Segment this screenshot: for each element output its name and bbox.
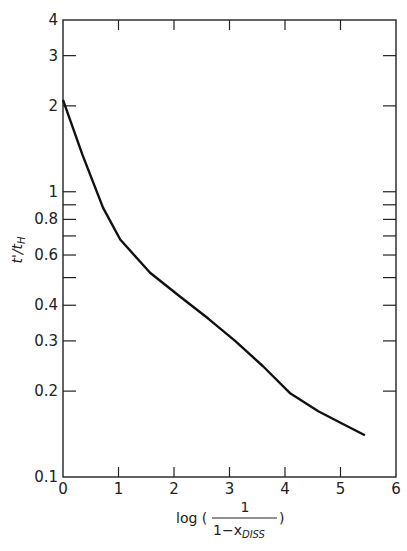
x-tick-label: 4 [280, 480, 290, 498]
y-tick-label: 4 [48, 11, 58, 29]
x-tick-label: 2 [169, 480, 179, 498]
x-label-prefix: log ( [176, 510, 207, 526]
y-label-main: t'/t [9, 243, 25, 263]
plot-border [63, 20, 396, 477]
y-label-subscript: H [16, 236, 27, 244]
x-tick-label: 6 [391, 480, 401, 498]
y-tick-label: 0.8 [34, 210, 58, 228]
plot-frame [63, 20, 396, 477]
axis-ticks [63, 20, 396, 477]
x-axis-label: log ( 1 1−xDISS ) [176, 499, 284, 540]
x-tick-label: 1 [114, 480, 124, 498]
x-label-numerator: 1 [241, 499, 250, 515]
y-tick-label: 0.2 [34, 382, 58, 400]
y-tick-label: 3 [48, 47, 58, 65]
y-tick-label: 1 [48, 183, 58, 201]
x-label-denominator: 1−xDISS [213, 522, 266, 540]
y-tick-label: 0.6 [34, 246, 58, 264]
data-curve [63, 100, 365, 436]
y-tick-label: 0.1 [34, 468, 58, 486]
x-label-suffix: ) [279, 510, 284, 526]
x-tick-label: 5 [336, 480, 346, 498]
svg-text:t'/tH: t'/tH [9, 236, 27, 264]
x-tick-label: 3 [225, 480, 235, 498]
x-label-denominator-main: 1−x [213, 522, 242, 538]
chart: 01234560.10.20.30.40.60.81234 t'/tH log … [0, 0, 407, 551]
y-tick-label: 0.3 [34, 332, 58, 350]
y-tick-label: 2 [48, 97, 58, 115]
y-tick-label: 0.4 [34, 296, 58, 314]
y-axis-label: t'/tH [9, 236, 27, 264]
x-tick-label: 0 [58, 480, 68, 498]
x-label-subscript: DISS [242, 529, 266, 540]
